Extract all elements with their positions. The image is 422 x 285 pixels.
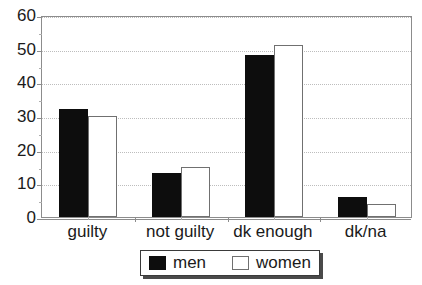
y-minor-tick <box>39 101 42 102</box>
x-minor-tick <box>88 217 89 220</box>
bar-men-guilty <box>59 109 88 217</box>
bar-women-dk-enough <box>274 45 303 217</box>
y-axis-tick-labels: 0102030405060 <box>0 0 36 285</box>
gridline-40 <box>42 84 411 85</box>
legend-label: women <box>256 254 311 272</box>
legend-label: men <box>173 254 206 272</box>
bar-men-dk-na <box>338 197 367 217</box>
x-axis-category-labels: guiltynot guiltydk enoughdk/na <box>41 222 412 246</box>
bar-men-dk-enough <box>245 55 274 217</box>
y-tick-label: 50 <box>0 41 36 58</box>
x-minor-tick <box>367 217 368 220</box>
y-tick-label: 60 <box>0 7 36 24</box>
y-tick-label: 40 <box>0 74 36 91</box>
x-minor-tick <box>274 217 275 220</box>
y-tick-label: 0 <box>0 209 36 226</box>
gridline-0 <box>42 219 411 220</box>
legend-entry-men: men <box>149 254 206 272</box>
y-tick-label: 20 <box>0 142 36 159</box>
plot-area <box>41 16 412 218</box>
chart-legend: menwomen <box>140 250 320 276</box>
legend-swatch-men <box>149 256 166 270</box>
x-tick-label: guilty <box>68 222 108 241</box>
x-tick-label: not guilty <box>146 222 214 241</box>
y-minor-tick <box>39 34 42 35</box>
gridline-60 <box>42 17 411 18</box>
y-tick-label: 10 <box>0 175 36 192</box>
x-tick-label: dk enough <box>233 222 312 241</box>
y-minor-tick <box>39 68 42 69</box>
y-minor-tick <box>39 135 42 136</box>
legend-entry-women: women <box>232 254 311 272</box>
gridline-50 <box>42 51 411 52</box>
y-minor-tick <box>39 202 42 203</box>
y-tick-20 <box>37 152 42 153</box>
y-tick-0 <box>37 219 42 220</box>
bar-women-not-guilty <box>181 167 210 218</box>
y-tick-50 <box>37 51 42 52</box>
bar-men-not-guilty <box>152 173 181 217</box>
bar-women-guilty <box>88 116 117 217</box>
y-tick-60 <box>37 17 42 18</box>
y-tick-30 <box>37 118 42 119</box>
y-minor-tick <box>39 169 42 170</box>
cropped-title-remnant <box>0 0 422 5</box>
bar-chart: 0102030405060 guiltynot guiltydk enoughd… <box>0 0 422 285</box>
y-tick-label: 30 <box>0 108 36 125</box>
y-tick-10 <box>37 185 42 186</box>
y-tick-40 <box>37 84 42 85</box>
legend-swatch-women <box>232 256 249 270</box>
bar-women-dk-na <box>367 204 396 217</box>
x-minor-tick <box>181 217 182 220</box>
x-tick-label: dk/na <box>345 222 387 241</box>
